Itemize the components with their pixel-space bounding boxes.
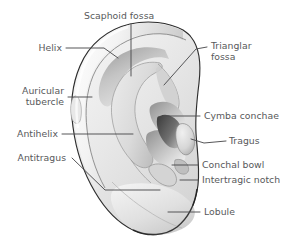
label-tragus: Tragus xyxy=(229,135,260,146)
label-scaphoid-fossa: Scaphoid fossa xyxy=(84,10,154,21)
label-auricular-tubercle: Auricular tubercle xyxy=(0,85,64,107)
label-helix: Helix xyxy=(0,42,62,53)
label-trianglar-fossa-text-line1: Trianglar xyxy=(211,40,252,51)
ear-anatomy-figure: Scaphoid fossa Helix Trianglar fossa Aur… xyxy=(0,0,302,250)
label-trianglar-fossa: Trianglar fossa xyxy=(211,40,252,62)
ear-drawing xyxy=(71,22,200,235)
label-cymba-conchae: Cymba conchae xyxy=(204,110,279,121)
label-helix-text: Helix xyxy=(39,42,62,53)
label-auricular-tubercle-text-line2: tubercle xyxy=(0,96,64,107)
label-lobule-text: Lobule xyxy=(204,206,235,217)
label-intertragic-notch: Intertragic notch xyxy=(202,174,280,185)
label-conchal-bowl: Conchal bowl xyxy=(202,159,264,170)
label-antitragus: Antitragus xyxy=(0,152,66,163)
ear-illustration xyxy=(0,0,302,250)
label-antihelix-text: Antihelix xyxy=(17,128,58,139)
label-lobule: Lobule xyxy=(204,206,235,217)
label-trianglar-fossa-text-line2: fossa xyxy=(211,51,252,62)
label-conchal-bowl-text: Conchal bowl xyxy=(202,159,264,170)
label-antitragus-text: Antitragus xyxy=(18,152,66,163)
label-antihelix: Antihelix xyxy=(0,128,58,139)
label-intertragic-notch-text: Intertragic notch xyxy=(202,174,280,185)
label-tragus-text: Tragus xyxy=(229,135,260,146)
label-cymba-conchae-text: Cymba conchae xyxy=(204,110,279,121)
label-scaphoid-fossa-text: Scaphoid fossa xyxy=(84,10,154,21)
label-auricular-tubercle-text-line1: Auricular xyxy=(0,85,64,96)
